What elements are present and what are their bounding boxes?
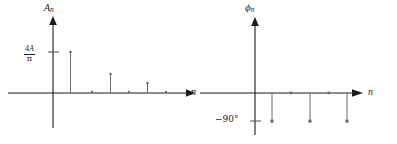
amplitude-ytick-numerator-symbol: A [29, 44, 34, 53]
amplitude-stem-head-n2 [91, 91, 93, 93]
phase-stem-head-n1 [270, 120, 273, 123]
amplitude-ytick-fraction: 4A π [24, 45, 35, 63]
amplitude-spectrum-panel: An 4A π n [0, 0, 200, 144]
amplitude-stem-head-n1 [69, 51, 72, 54]
amplitude-vertical-axis-arrow [49, 16, 57, 25]
phase-horizontal-axis-arrow [352, 89, 363, 97]
phase-horizontal-axis-label: n [368, 87, 373, 97]
amplitude-stem-head-n6 [165, 91, 167, 93]
amplitude-axis-label-subscript: n [50, 5, 54, 14]
phase-stem-head-n5 [345, 120, 348, 123]
phase-axis-label-subscript: n [251, 5, 255, 14]
amplitude-plot-svg [0, 0, 200, 144]
amplitude-stem-head-n3 [109, 73, 112, 76]
line-spectra-figure: An 4A π n [0, 0, 397, 144]
phase-stem-head-n3 [308, 120, 311, 123]
amplitude-stem-head-n5 [146, 82, 149, 85]
phase-vertical-axis-arrow [251, 17, 259, 26]
phase-axis-label: ϕn [245, 2, 254, 14]
amplitude-ytick-denominator: π [24, 55, 35, 63]
phase-spectrum-panel: ϕn −90° n [200, 0, 397, 144]
amplitude-axis-label: An [44, 3, 54, 14]
phase-ytick-label: −90° [215, 115, 239, 124]
amplitude-stem-head-n4 [128, 91, 130, 93]
amplitude-horizontal-axis-label: n [191, 87, 196, 97]
phase-stem-head-n4 [328, 92, 331, 95]
phase-stem-head-n2 [290, 92, 293, 95]
amplitude-ytick-label: 4A π [24, 45, 35, 63]
